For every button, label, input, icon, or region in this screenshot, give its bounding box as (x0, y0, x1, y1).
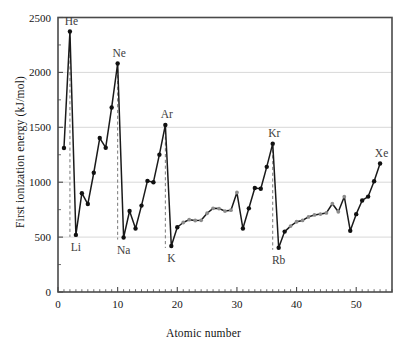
y-tick-label-2000: 2000 (29, 66, 52, 78)
data-point-I (372, 179, 376, 183)
annotation-Ne: Ne (112, 47, 125, 59)
element-annotations: HeNeArKrXeLiNaKRb (65, 15, 389, 266)
data-point-Li (74, 233, 78, 237)
annotation-Kr: Kr (268, 127, 280, 139)
data-point-Sb (360, 198, 364, 202)
y-axis-title: First ionization energy (kJ/mol) (14, 64, 26, 240)
data-point-Ar (163, 123, 167, 127)
data-point-Sn (354, 212, 358, 216)
data-line (64, 32, 380, 248)
data-point-Tc (313, 213, 317, 217)
data-point-N (98, 136, 102, 140)
data-point-Xe (378, 161, 382, 165)
axis-frame (58, 18, 392, 293)
data-point-Mn (205, 211, 209, 215)
x-axis-title: Atomic number (0, 327, 407, 339)
x-tick-label-0: 0 (55, 298, 61, 310)
data-point-Ca (175, 225, 179, 229)
data-point-Ag (336, 210, 340, 214)
data-point-Kr (271, 141, 275, 145)
y-tick-label-1500: 1500 (29, 121, 52, 133)
ionization-energy-polyline (64, 32, 380, 248)
y-tick-label-1000: 1000 (29, 176, 52, 188)
annotation-Ar: Ar (161, 108, 173, 120)
data-point-C (92, 171, 96, 175)
data-point-Se (259, 186, 263, 190)
data-point-Na (121, 235, 125, 239)
data-point-Rh (324, 211, 328, 215)
data-point-Ga (241, 226, 245, 230)
data-point-Y (289, 224, 293, 228)
y-tick-label-2500: 2500 (29, 12, 52, 24)
x-tick-label-30: 30 (231, 298, 243, 310)
data-point-Co (217, 207, 221, 211)
annotation-Rb: Rb (272, 254, 286, 266)
data-point-Nb (301, 219, 305, 223)
data-point-He (68, 29, 72, 33)
x-tick-label-50: 50 (351, 298, 363, 310)
data-point-Mo (307, 215, 311, 219)
data-point-K (169, 244, 173, 248)
data-point-Be (80, 191, 84, 195)
plot-frame (58, 18, 392, 293)
data-point-Fe (211, 206, 215, 210)
data-point-Ge (247, 206, 251, 210)
data-point-Zn (235, 191, 239, 195)
annotation-Xe: Xe (375, 147, 388, 159)
data-point-Ti (187, 218, 191, 222)
data-point-Cd (342, 195, 346, 199)
ionization-energy-chart: HeNeArKrXeLiNaKRb 01020304050 0500100015… (0, 0, 407, 355)
data-point-Pd (330, 202, 334, 206)
x-tick-label-20: 20 (172, 298, 184, 310)
data-point-Si (139, 203, 143, 207)
annotation-He: He (65, 15, 78, 27)
data-point-Cr (199, 218, 203, 222)
data-point-O (104, 146, 108, 150)
data-point-Zr (295, 220, 299, 224)
data-point-Cl (157, 152, 161, 156)
annotation-Li: Li (71, 241, 81, 253)
x-tick-label-10: 10 (112, 298, 124, 310)
data-point-Br (265, 165, 269, 169)
data-point-S (151, 180, 155, 184)
data-point-Mg (127, 209, 131, 213)
data-point-H (62, 146, 66, 150)
drop-lines (70, 32, 273, 250)
y-tick-labels: 05001000150020002500 (29, 12, 52, 299)
data-point-P (145, 179, 149, 183)
data-markers (62, 29, 383, 250)
x-tick-label-40: 40 (291, 298, 303, 310)
data-point-Al (133, 226, 137, 230)
data-point-As (253, 186, 257, 190)
annotation-K: K (167, 252, 176, 264)
data-point-B (86, 202, 90, 206)
data-point-In (348, 229, 352, 233)
x-tick-labels: 01020304050 (55, 298, 362, 310)
data-point-Ni (223, 209, 227, 213)
y-tick-label-500: 500 (35, 231, 52, 243)
data-point-Sc (181, 221, 185, 225)
data-point-Sr (282, 229, 286, 233)
data-point-Cu (229, 208, 233, 212)
data-point-Ne (115, 61, 119, 65)
data-point-Rb (276, 246, 280, 250)
data-point-F (109, 105, 113, 109)
data-point-Ru (319, 212, 323, 216)
data-point-V (193, 219, 197, 223)
annotation-Na: Na (117, 244, 130, 256)
y-tick-label-0: 0 (46, 286, 52, 298)
data-point-Te (366, 194, 370, 198)
plot-area: HeNeArKrXeLiNaKRb 01020304050 0500100015… (0, 0, 407, 355)
